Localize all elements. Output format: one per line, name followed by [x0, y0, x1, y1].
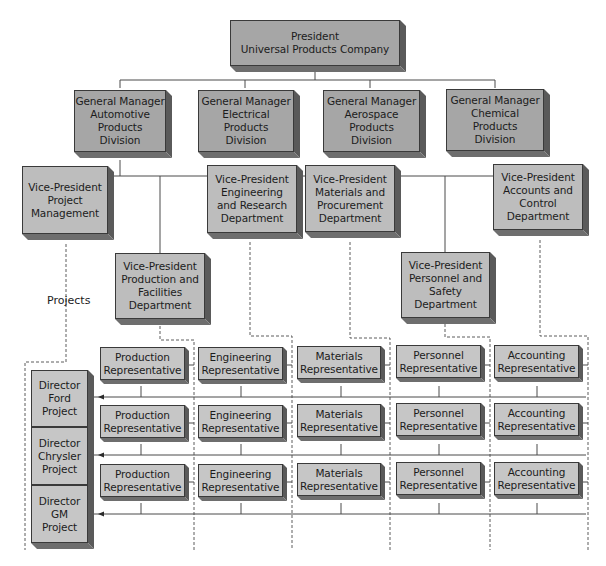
rep-depth — [0, 0, 606, 566]
